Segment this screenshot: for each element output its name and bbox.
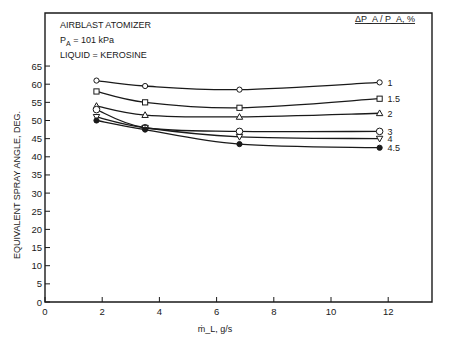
square-marker xyxy=(143,100,148,105)
y-tick-label: 65 xyxy=(31,61,42,72)
dot-marker xyxy=(237,141,242,146)
series-end-label: 1.5 xyxy=(388,94,401,104)
x-tick-label: 12 xyxy=(383,306,394,317)
y-tick-label: 25 xyxy=(31,206,42,217)
y-tick-label: 10 xyxy=(31,260,42,271)
y-tick-label: 15 xyxy=(31,242,42,253)
annotation-liquid: LIQUID = KEROSINE xyxy=(60,50,147,60)
circle-marker xyxy=(377,80,382,85)
y-tick-label: 35 xyxy=(31,169,42,180)
series-end-label: 4.5 xyxy=(388,143,401,153)
x-axis-label: ṁ_L, g/s xyxy=(198,324,233,334)
y-tick-label: 50 xyxy=(31,115,42,126)
dot-marker xyxy=(143,127,148,132)
series-end-label: 2 xyxy=(388,109,393,119)
series-4-5: 4.5 xyxy=(94,118,400,153)
x-tick-label: 0 xyxy=(42,306,47,317)
legend-title: ΔP_A / P_A, % xyxy=(355,14,415,24)
x-tick-label: 4 xyxy=(157,306,162,317)
x-tick-label: 10 xyxy=(326,306,337,317)
circle-marker xyxy=(236,128,243,135)
circle-marker xyxy=(376,128,383,135)
circle-marker xyxy=(94,78,99,83)
y-axis: 05101520253035404550556065 xyxy=(31,61,50,308)
x-tick-label: 2 xyxy=(100,306,105,317)
x-tick-label: 6 xyxy=(214,306,219,317)
y-tick-label: 20 xyxy=(31,224,42,235)
series-end-label: 1 xyxy=(388,78,393,88)
series-3: 3 xyxy=(93,106,392,137)
square-marker xyxy=(94,89,99,94)
x-axis: 024681012 xyxy=(42,297,393,317)
x-tick-label: 8 xyxy=(271,306,276,317)
y-tick-label: 55 xyxy=(31,97,42,108)
annotation-pressure: PA = 101 kPa xyxy=(60,35,114,47)
dot-marker xyxy=(377,145,382,150)
chart-canvas: 05101520253035404550556065 024681012 11.… xyxy=(0,0,450,350)
y-tick-label: 0 xyxy=(37,297,42,308)
y-tick-label: 60 xyxy=(31,79,42,90)
series-1: 1 xyxy=(94,78,393,92)
y-tick-label: 40 xyxy=(31,151,42,162)
square-marker xyxy=(377,96,382,101)
y-tick-label: 5 xyxy=(37,278,42,289)
y-tick-label: 45 xyxy=(31,133,42,144)
y-axis-label: EQUIVALENT SPRAY ANGLE, DEG. xyxy=(12,111,22,259)
series-2: 2 xyxy=(93,103,392,120)
series-group: 11.52344.5 xyxy=(93,78,400,153)
circle-marker xyxy=(237,87,242,92)
circle-marker xyxy=(93,106,100,113)
y-tick-label: 30 xyxy=(31,188,42,199)
dot-marker xyxy=(94,118,99,123)
annotation-atomizer: AIRBLAST ATOMIZER xyxy=(60,20,152,30)
circle-marker xyxy=(143,83,148,88)
series-1-5: 1.5 xyxy=(94,89,400,111)
square-marker xyxy=(237,105,242,110)
